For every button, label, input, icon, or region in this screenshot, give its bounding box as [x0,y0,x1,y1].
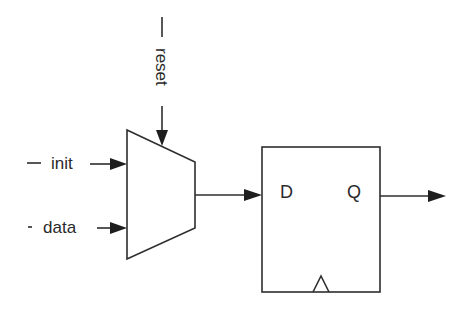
circuit-diagram: reset init data D Q [0,0,473,310]
init-label: init [51,154,73,173]
multiplexer [127,130,195,259]
data-label: data [43,218,77,237]
q-pin-label: Q [347,182,361,202]
init-arrowhead-icon [110,158,127,170]
init-signal: init [27,154,127,173]
reset-arrowhead-icon [156,130,168,146]
q-arrowhead-icon [428,190,446,202]
d-arrowhead-icon [244,189,262,201]
d-flipflop [262,147,380,292]
data-signal: data [28,218,127,237]
data-arrowhead-icon [110,222,127,234]
reset-signal: reset [152,17,171,146]
d-pin-label: D [280,182,293,202]
clock-triangle-icon [313,276,329,292]
reset-label: reset [152,48,171,86]
